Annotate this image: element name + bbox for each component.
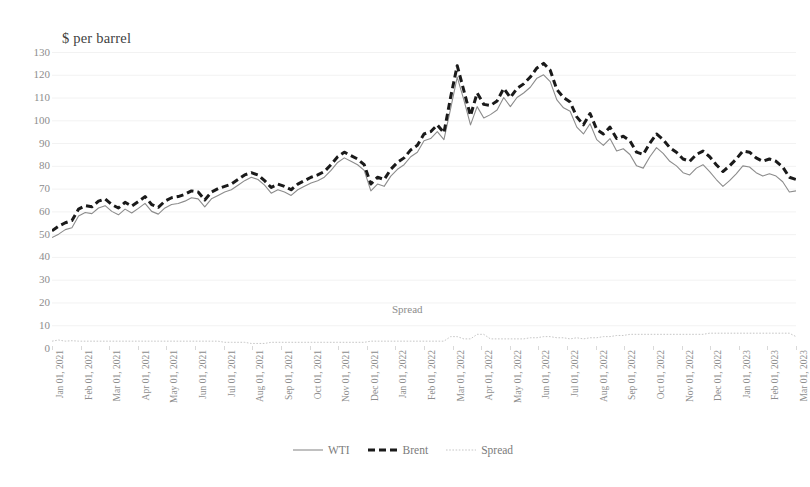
x-axis-tick-mark [367, 346, 368, 350]
x-axis-tick-mark [481, 346, 482, 350]
x-axis-tick-mark [510, 346, 511, 350]
legend-swatch-wti-icon [293, 445, 323, 455]
x-axis-tick-label: Nov 01, 2021 [342, 350, 352, 402]
x-axis-tick-label: Dec 01, 2022 [714, 350, 724, 401]
x-axis-tick-mark [538, 346, 539, 350]
x-axis-tick-label: Mar 01, 2021 [113, 350, 123, 401]
spread-annotation: Spread [392, 303, 423, 315]
x-axis-tick-mark [710, 346, 711, 350]
x-axis-tick-label: Jan 01, 2021 [56, 350, 66, 398]
y-axis-tick: 40 [20, 251, 50, 262]
x-axis-tick-mark [195, 346, 196, 350]
x-axis-tick-label: Oct 01, 2022 [657, 350, 667, 399]
x-axis-tick-mark [310, 346, 311, 350]
x-axis-tick-label: Oct 01, 2021 [314, 350, 324, 399]
x-axis-tick-label: Mar 01, 2023 [800, 350, 810, 401]
x-axis-tick-label: Dec 01, 2021 [371, 350, 381, 401]
legend-label: Brent [403, 444, 429, 456]
x-axis-tick-mark [81, 346, 82, 350]
x-axis-tick-mark [395, 346, 396, 350]
x-axis-tick-label: May 01, 2022 [514, 350, 524, 403]
y-axis-tick: 100 [20, 115, 50, 126]
x-axis-tick-label: Feb 01, 2021 [85, 350, 95, 400]
y-axis-title: $ per barrel [62, 30, 131, 47]
legend-label: WTI [328, 444, 350, 456]
y-axis-tick: 30 [20, 274, 50, 285]
legend-swatch-brent-icon [368, 445, 398, 455]
x-axis-tick-label: Feb 01, 2022 [428, 350, 438, 400]
x-axis-tick-mark [453, 346, 454, 350]
x-axis-tick-mark [52, 346, 53, 350]
plot-area [52, 52, 796, 348]
x-axis-tick-label: Aug 01, 2021 [256, 350, 266, 402]
chart-legend: WTIBrentSpread [0, 444, 806, 456]
x-axis-tick-label: Jun 01, 2021 [199, 350, 209, 399]
x-axis-tick-mark [767, 346, 768, 350]
y-axis-tick: 120 [20, 69, 50, 80]
y-axis-tick: 130 [20, 47, 50, 58]
x-axis-tick-label: Apr 01, 2021 [142, 350, 152, 400]
series-line-brent [52, 63, 796, 230]
y-axis-tick: 60 [20, 206, 50, 217]
x-axis-tick-label: Jul 01, 2021 [228, 350, 238, 397]
legend-item-wti[interactable]: WTI [293, 444, 350, 456]
y-axis-tick: 110 [20, 92, 50, 103]
series-line-spread [52, 333, 796, 343]
x-axis-tick-mark [596, 346, 597, 350]
x-axis-tick-mark [109, 346, 110, 350]
x-axis-tick-mark [796, 346, 797, 350]
y-axis-tick: 50 [20, 229, 50, 240]
x-axis-tick-mark [567, 346, 568, 350]
x-axis-tick-mark [224, 346, 225, 350]
x-axis-tick-label: Jul 01, 2022 [571, 350, 581, 397]
x-axis-tick-label: Nov 01, 2022 [686, 350, 696, 402]
x-axis-tick-label: Aug 01, 2022 [600, 350, 610, 402]
x-axis-tick-label: Jan 01, 2022 [399, 350, 409, 398]
y-axis-tick: 10 [20, 320, 50, 331]
legend-item-brent[interactable]: Brent [368, 444, 429, 456]
legend-item-spread[interactable]: Spread [446, 444, 513, 456]
x-axis: Jan 01, 2021Feb 01, 2021Mar 01, 2021Apr … [52, 350, 796, 440]
y-axis-tick: 80 [20, 160, 50, 171]
y-axis-tick: 90 [20, 138, 50, 149]
x-axis-tick-label: Jun 01, 2022 [542, 350, 552, 399]
legend-swatch-spread-icon [446, 445, 476, 455]
x-axis-tick-label: Mar 01, 2022 [457, 350, 467, 401]
legend-label: Spread [481, 444, 513, 456]
x-axis-tick-mark [424, 346, 425, 350]
x-axis-tick-mark [338, 346, 339, 350]
x-axis-tick-label: Sep 01, 2022 [628, 350, 638, 400]
y-axis-tick: 20 [20, 297, 50, 308]
x-axis-tick-mark [166, 346, 167, 350]
series-line-wti [52, 75, 796, 238]
x-axis-tick-label: Jan 01, 2023 [743, 350, 753, 398]
y-axis-tick: 70 [20, 183, 50, 194]
x-axis-tick-mark [138, 346, 139, 350]
x-axis-tick-mark [739, 346, 740, 350]
y-axis-tick: 0 [20, 343, 50, 354]
x-axis-tick-mark [624, 346, 625, 350]
y-axis: 1301201101009080706050403020100 [18, 0, 50, 487]
x-axis-tick-label: Apr 01, 2022 [485, 350, 495, 400]
x-axis-tick-mark [281, 346, 282, 350]
x-axis-tick-label: Sep 01, 2021 [285, 350, 295, 400]
plot-svg [52, 52, 796, 348]
x-axis-tick-label: May 01, 2021 [170, 350, 180, 403]
x-axis-tick-mark [653, 346, 654, 350]
x-axis-tick-label: Feb 01, 2023 [771, 350, 781, 400]
x-axis-tick-mark [252, 346, 253, 350]
x-axis-tick-mark [682, 346, 683, 350]
